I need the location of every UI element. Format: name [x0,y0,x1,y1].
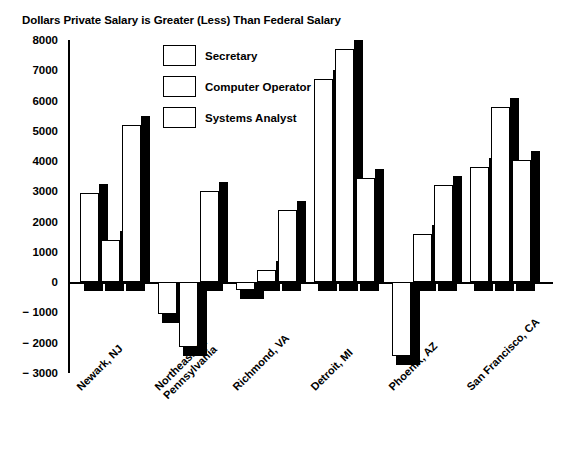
bar [158,282,177,314]
bar [356,178,375,282]
bar [179,282,198,347]
bar-shadow-base [417,282,436,291]
y-tick-label: 6000 [0,95,58,107]
y-tick-label: 1000 [0,246,58,258]
bar-shadow [411,282,420,365]
bar [200,191,219,282]
bar-shadow-base [282,282,301,291]
legend-item-computer-operator: Computer Operator [163,76,311,97]
chart-title: Dollars Private Salary is Greater (Less)… [22,14,341,26]
legend-swatch-icon [163,45,196,66]
bar-shadow-base [474,282,493,291]
y-tick-label: − 3000 [0,367,58,379]
bar [491,107,510,283]
y-tick-label: 4000 [0,155,58,167]
bar-shadow-base [516,282,535,291]
y-tick-label: 0 [0,276,58,288]
bar-shadow-base [360,282,379,291]
legend-swatch-icon [163,76,196,97]
bar-shadow-base [204,282,223,291]
bar [434,185,453,282]
bar-shadow [375,169,384,282]
y-axis-tick-labels: 800070006000500040003000200010000− 1000−… [0,40,62,373]
bar-shadow [531,151,540,283]
bar [278,210,297,283]
y-tick-label: − 1000 [0,306,58,318]
bar [257,270,276,282]
bar [236,282,255,290]
bar-shadow-base [183,347,202,356]
plot-area [68,40,563,373]
y-tick-label: 2000 [0,216,58,228]
bar [413,234,432,282]
bar [335,49,354,282]
bar [392,282,411,356]
bars-layer [68,40,563,373]
bar [101,240,120,282]
bar-shadow-base [396,356,415,365]
y-tick-label: 3000 [0,185,58,197]
legend-item-secretary: Secretary [163,45,311,66]
bar-shadow [219,182,228,282]
y-tick-label: 8000 [0,34,58,46]
bar [470,167,489,282]
legend-swatch-icon [163,107,196,128]
bar-shadow-base [339,282,358,291]
bar-shadow-base [318,282,337,291]
bar [122,125,141,282]
legend-label: Secretary [205,50,257,62]
bar [80,193,99,282]
bar-shadow-base [438,282,457,291]
bar-chart: Dollars Private Salary is Greater (Less)… [0,0,574,473]
bar [512,160,531,283]
bar-shadow [198,282,207,356]
bar-shadow [297,201,306,283]
legend-label: Computer Operator [205,81,311,93]
legend: Secretary Computer Operator Systems Anal… [163,45,311,128]
y-tick-label: 7000 [0,64,58,76]
legend-label: Systems Analyst [205,112,297,124]
bar [314,79,333,282]
bar-shadow-base [105,282,124,291]
bar-shadow-base [261,282,280,291]
y-tick-label: 5000 [0,125,58,137]
bar-shadow [141,116,150,282]
bar-shadow-base [240,290,259,299]
bar-shadow-base [126,282,145,291]
legend-item-systems-analyst: Systems Analyst [163,107,311,128]
bar-shadow-base [84,282,103,291]
bar-shadow-base [495,282,514,291]
y-tick-label: − 2000 [0,337,58,349]
bar-shadow [453,176,462,282]
